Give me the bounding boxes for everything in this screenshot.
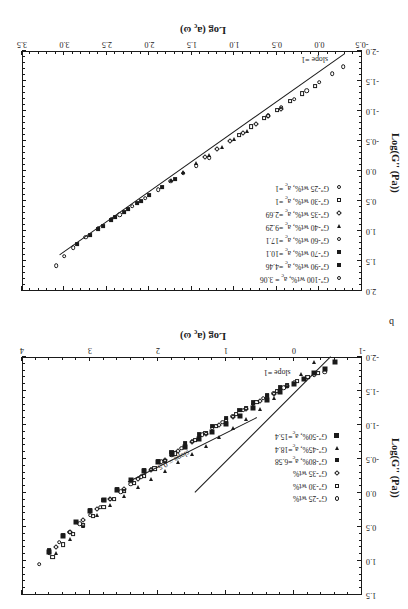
- panel-letter-b: b: [389, 317, 394, 328]
- marker-filled-square-big: [88, 508, 93, 513]
- legend-marker-open-square: [332, 195, 346, 204]
- marker-open-circle: [335, 496, 339, 500]
- x-tick: [157, 357, 158, 362]
- y-minor-tick: [22, 499, 25, 500]
- x-minor-tick: [81, 288, 82, 291]
- x-minor-tick: [132, 288, 133, 291]
- y-minor-tick: [359, 62, 362, 63]
- y-minor-tick: [22, 444, 25, 445]
- y-minor-tick: [22, 370, 25, 371]
- x-minor-tick: [347, 357, 348, 360]
- x-tick: [89, 591, 90, 596]
- y-minor-tick: [359, 116, 362, 117]
- y-minor-tick: [22, 404, 25, 405]
- x-minor-tick: [200, 288, 201, 291]
- x-tick: [149, 287, 150, 292]
- y-tick: [358, 260, 363, 261]
- y-tick: [22, 200, 27, 201]
- x-tick: [191, 287, 192, 292]
- y-tick: [358, 290, 363, 291]
- marker-filled-square-big: [60, 533, 65, 538]
- marker-filled-triangle: [68, 537, 72, 541]
- y-axis-title-b: Log(G'' (Pa)): [390, 438, 401, 498]
- y-minor-tick: [22, 104, 25, 105]
- x-minor-tick: [344, 288, 345, 291]
- x-minor-tick: [285, 51, 286, 54]
- x-minor-tick: [174, 288, 175, 291]
- x-tick: [361, 51, 362, 56]
- y-minor-tick: [359, 417, 362, 418]
- x-axis-title-a-main: Log (a: [197, 25, 226, 36]
- y-minor-tick: [359, 56, 362, 57]
- y-minor-tick: [22, 254, 25, 255]
- y-minor-tick: [22, 92, 25, 93]
- x-tick-label: 1: [224, 346, 228, 354]
- legend-item: G''-90 wt%, ac =4.46: [266, 260, 346, 270]
- y-minor-tick: [359, 587, 362, 588]
- y-minor-tick: [359, 194, 362, 195]
- y-minor-tick: [22, 519, 25, 520]
- y-minor-tick: [359, 164, 362, 165]
- x-minor-tick: [327, 288, 328, 291]
- marker-filled-square-big: [101, 497, 106, 502]
- x-tick-label: 0.0: [314, 40, 324, 48]
- marker-filled-triangle: [258, 407, 262, 411]
- x-minor-tick: [334, 592, 335, 595]
- y-minor-tick: [359, 218, 362, 219]
- x-minor-tick: [98, 288, 99, 291]
- marker-filled-triangle: [149, 477, 153, 481]
- y-tick: [22, 140, 27, 141]
- y-minor-tick: [22, 284, 25, 285]
- x-minor-tick: [116, 357, 117, 360]
- y-minor-tick: [359, 465, 362, 466]
- legend-item: G''-35 wt%, ac =2.69: [266, 208, 346, 218]
- y-tick-label: 0.5: [366, 523, 388, 531]
- legend-item: G''-40 wt%, ac =9.29: [266, 221, 346, 231]
- y-tick: [22, 594, 27, 595]
- y-tick: [22, 50, 27, 51]
- x-minor-tick: [35, 357, 36, 360]
- x-minor-tick: [75, 592, 76, 595]
- x-minor-tick: [334, 357, 335, 360]
- y-minor-tick: [22, 278, 25, 279]
- x-minor-tick: [200, 51, 201, 54]
- y-minor-tick: [22, 116, 25, 117]
- marker-filled-square: [337, 263, 341, 267]
- y-tick-label: 0.0: [366, 167, 388, 175]
- marker-open-square: [275, 108, 279, 112]
- marker-filled-square: [210, 424, 214, 428]
- x-tick: [276, 287, 277, 292]
- y-minor-tick: [22, 134, 25, 135]
- x-minor-tick: [115, 51, 116, 54]
- legend-marker-open-circle: [330, 494, 344, 503]
- marker-open-square: [262, 116, 266, 120]
- y-minor-tick: [22, 397, 25, 398]
- x-minor-tick: [336, 288, 337, 291]
- marker-open-circle: [305, 88, 309, 92]
- y-minor-tick: [22, 98, 25, 99]
- y-tick: [358, 560, 363, 561]
- x-axis-title-b-sub: c: [194, 328, 197, 337]
- y-minor-tick: [359, 370, 362, 371]
- y-minor-tick: [359, 104, 362, 105]
- marker-filled-square: [238, 408, 242, 412]
- x-tick-label: 2: [156, 346, 160, 354]
- legend-label: G''-80%, ac=6.58: [275, 455, 327, 465]
- y-minor-tick: [22, 587, 25, 588]
- y-minor-tick: [22, 164, 25, 165]
- x-minor-tick: [293, 288, 294, 291]
- y-tick-label: 1.0: [366, 227, 388, 235]
- marker-open-circle: [279, 105, 283, 109]
- marker-open-circle: [266, 114, 270, 118]
- x-tick: [319, 51, 320, 56]
- x-minor-tick: [30, 51, 31, 54]
- y-minor-tick: [359, 98, 362, 99]
- y-tick: [358, 170, 363, 171]
- x-minor-tick: [123, 288, 124, 291]
- marker-filled-triangle: [204, 444, 208, 448]
- x-tick: [157, 591, 158, 596]
- x-minor-tick: [198, 592, 199, 595]
- x-minor-tick: [103, 357, 104, 360]
- y-minor-tick: [359, 188, 362, 189]
- x-tick-label: 3: [88, 346, 92, 354]
